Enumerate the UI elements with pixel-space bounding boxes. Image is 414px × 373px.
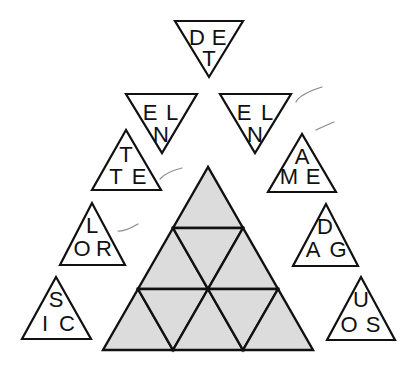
letter-triangle-lower-right[interactable]: D A G — [293, 204, 358, 266]
answer-grid — [103, 167, 313, 350]
letter: G — [329, 237, 346, 262]
letter: L — [86, 213, 98, 238]
check-mark — [296, 87, 322, 102]
letter: E — [132, 164, 147, 189]
check-mark — [316, 122, 334, 130]
letter: S — [366, 312, 381, 337]
letter: C — [59, 311, 75, 336]
grid-cell-1[interactable] — [173, 167, 243, 228]
letter: S — [49, 287, 64, 312]
letter-triangle-bottom-right[interactable]: U O S — [327, 277, 395, 340]
letter: T — [109, 164, 122, 189]
letter-triangle-bottom-left[interactable]: S I C — [22, 277, 91, 339]
letter: O — [340, 312, 357, 337]
letter: O — [73, 236, 90, 261]
letter: T — [202, 46, 215, 71]
letter-triangle-mid-left[interactable]: T T E — [92, 130, 161, 190]
letter-triangle-mid-right[interactable]: A M E — [268, 134, 336, 192]
letter: R — [96, 236, 112, 261]
letter: E — [306, 164, 321, 189]
letter: N — [247, 122, 263, 147]
letter: M — [280, 164, 298, 189]
puzzle-canvas: D E T E L N E L N T T E A M E L O R — [0, 0, 414, 373]
letter: D — [317, 214, 333, 239]
letter-triangle-upper-left[interactable]: E L N — [126, 94, 197, 153]
letter-triangle-upper-right[interactable]: E L N — [220, 94, 291, 153]
check-mark — [160, 168, 182, 179]
letter-triangle-top[interactable]: D E T — [175, 21, 243, 77]
letter: A — [306, 237, 321, 262]
letter-triangle-lower-left[interactable]: L O R — [60, 203, 125, 265]
letter: U — [353, 287, 369, 312]
letter: I — [42, 311, 48, 336]
letter: N — [153, 122, 169, 147]
check-mark — [118, 224, 138, 231]
